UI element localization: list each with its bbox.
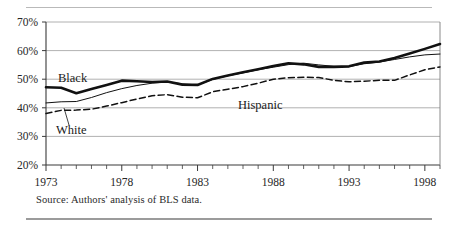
x-axis-tick-label: 1983 bbox=[186, 176, 209, 188]
x-axis-labels-group: 197319781983198819931998 bbox=[35, 176, 437, 188]
series-line-white bbox=[46, 54, 440, 103]
y-axis-tick-label: 60% bbox=[17, 45, 39, 57]
y-axis-tick-label: 50% bbox=[17, 73, 39, 85]
y-axis-labels-group: 20%30%40%50%60%70% bbox=[17, 16, 39, 171]
series-label-black: Black bbox=[58, 71, 88, 85]
y-axis-tick-label: 40% bbox=[17, 102, 39, 114]
figure-top-rule bbox=[26, 7, 432, 8]
series-label-hispanic: Hispanic bbox=[238, 98, 283, 112]
y-axis-tick-label: 20% bbox=[17, 159, 39, 171]
series-label-white: White bbox=[56, 123, 87, 137]
source-note: Source: Authors' analysis of BLS data. bbox=[36, 194, 202, 205]
x-axis-tick-label: 1988 bbox=[262, 176, 285, 188]
figure-bottom-rule bbox=[26, 218, 432, 220]
figure-container: 20%30%40%50%60%70% 197319781983198819931… bbox=[0, 0, 457, 226]
gridlines-group bbox=[46, 22, 440, 136]
line-chart: 20%30%40%50%60%70% 197319781983198819931… bbox=[0, 10, 457, 190]
y-axis-tick-label: 30% bbox=[17, 130, 39, 142]
y-axis-ticks-group bbox=[42, 22, 46, 165]
y-axis-tick-label: 70% bbox=[17, 16, 39, 28]
x-axis-ticks-group bbox=[46, 165, 440, 171]
x-axis-tick-label: 1998 bbox=[413, 176, 436, 188]
series-line-black bbox=[46, 44, 440, 93]
chart-plot-area: 20%30%40%50%60%70% 197319781983198819931… bbox=[0, 10, 457, 190]
x-axis-tick-label: 1978 bbox=[110, 176, 133, 188]
x-axis-tick-label: 1993 bbox=[338, 176, 361, 188]
x-axis-tick-label: 1973 bbox=[35, 176, 58, 188]
